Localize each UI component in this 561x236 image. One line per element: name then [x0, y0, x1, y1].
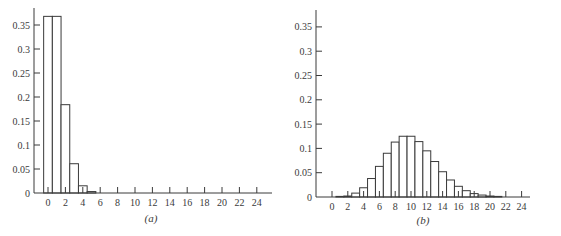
histogram-bar [399, 136, 407, 197]
histogram-bar [462, 191, 470, 197]
y-tick-label: 0.35 [13, 20, 31, 31]
x-tick-label: 14 [438, 201, 448, 212]
histogram-bar [61, 105, 70, 193]
histogram-bar [52, 16, 61, 193]
x-tick-label: 20 [485, 201, 495, 212]
x-tick-label: 16 [182, 197, 192, 208]
histogram-bar [415, 142, 423, 197]
histogram-bar [44, 16, 53, 193]
histogram-bar [368, 179, 376, 197]
histogram-bar [423, 151, 431, 197]
x-tick-label: 18 [200, 197, 210, 208]
x-tick-label: 10 [406, 201, 416, 212]
x-tick-label: 20 [217, 197, 227, 208]
y-tick-label: 0.2 [300, 94, 313, 105]
y-tick-label: 0.3 [300, 46, 313, 57]
x-tick-label: 10 [130, 197, 140, 208]
x-tick-label: 8 [393, 201, 398, 212]
histogram-bar [383, 153, 391, 197]
histogram-bar [431, 162, 439, 197]
x-tick-label: 24 [517, 201, 527, 212]
y-tick-label: 0.2 [18, 92, 31, 103]
y-tick-label: 0.35 [295, 21, 313, 32]
x-tick-label: 18 [469, 201, 479, 212]
x-tick-label: 12 [422, 201, 432, 212]
x-tick-label: 2 [345, 201, 350, 212]
x-tick-label: 12 [147, 197, 157, 208]
chart-a-poisson-mean-1: 00.050.10.150.20.250.30.3502468101214161… [13, 8, 273, 225]
y-tick-label: 0.25 [295, 70, 313, 81]
y-tick-label: 0.15 [295, 119, 313, 130]
y-tick-label: 0.05 [13, 164, 31, 175]
figure: 00.050.10.150.20.250.30.3502468101214161… [0, 0, 561, 236]
x-tick-label: 4 [80, 197, 85, 208]
bars [336, 136, 502, 197]
y-tick-label: 0.3 [18, 44, 31, 55]
chart-caption: (a) [145, 212, 158, 225]
x-tick-label: 0 [330, 201, 335, 212]
x-tick-label: 8 [115, 197, 120, 208]
chart-b-poisson-mean-10: 00.050.10.150.20.250.30.3502468101214161… [295, 10, 531, 227]
x-tick-label: 2 [63, 197, 68, 208]
x-tick-label: 22 [501, 201, 511, 212]
x-tick-label: 16 [453, 201, 463, 212]
y-tick-label: 0.25 [13, 68, 31, 79]
y-tick-label: 0.15 [13, 116, 31, 127]
x-tick-label: 14 [165, 197, 175, 208]
chart-caption: (b) [417, 214, 430, 227]
x-tick-label: 6 [98, 197, 103, 208]
histogram-bar [70, 164, 79, 193]
x-tick-label: 0 [46, 197, 51, 208]
x-tick-label: 6 [377, 201, 382, 212]
y-tick-label: 0 [25, 188, 30, 199]
y-tick-label: 0.1 [18, 140, 31, 151]
histogram-bar [352, 193, 360, 197]
y-tick-label: 0.05 [295, 167, 313, 178]
histogram-bar [407, 136, 415, 197]
x-tick-label: 4 [361, 201, 366, 212]
bars [44, 16, 96, 193]
histogram-bar [447, 180, 455, 197]
histogram-bar [391, 142, 399, 197]
y-tick-label: 0.1 [300, 143, 313, 154]
x-tick-label: 24 [252, 197, 262, 208]
x-tick-label: 22 [234, 197, 244, 208]
y-tick-label: 0 [307, 192, 312, 203]
